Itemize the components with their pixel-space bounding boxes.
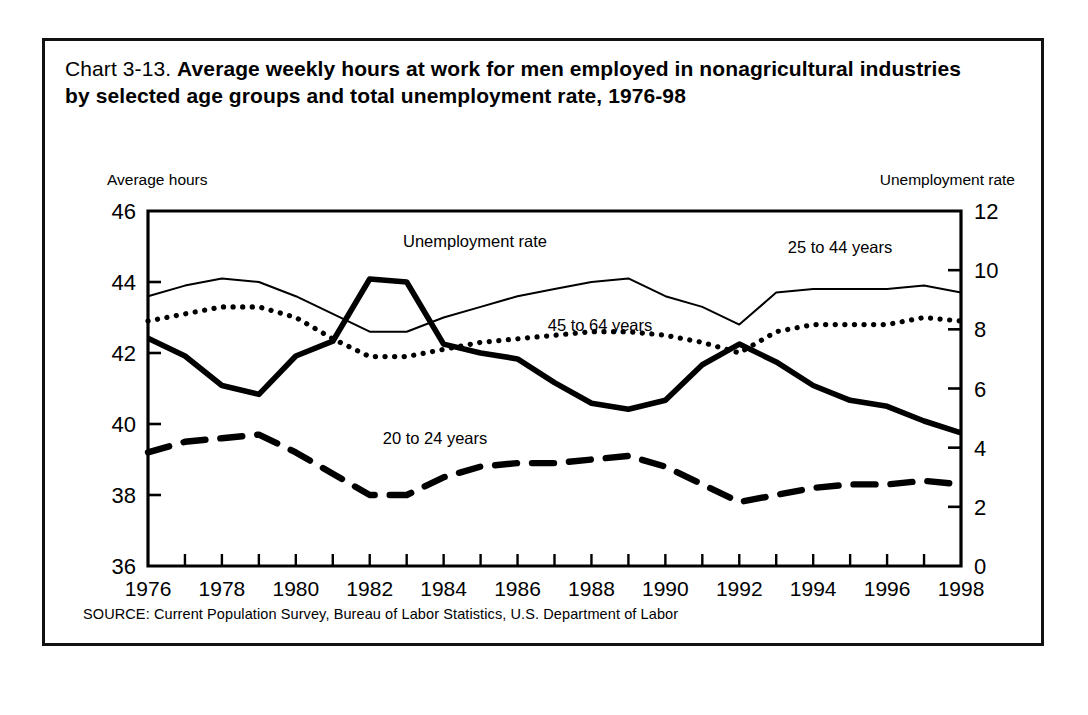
x-tick-label-1982: 1982	[346, 577, 393, 600]
x-tick-label-1984: 1984	[420, 577, 467, 600]
x-tick-label-1980: 1980	[272, 577, 319, 600]
x-tick-label-1978: 1978	[199, 577, 246, 600]
y-tick-label-left-36: 36	[112, 554, 136, 579]
y-tick-label-right-12: 12	[974, 199, 998, 224]
y-tick-label-right-6: 6	[974, 377, 986, 402]
x-tick-label-1998: 1998	[938, 577, 985, 600]
series-annotation-20-to-24-years: 20 to 24 years	[383, 429, 488, 447]
x-tick-label-1996: 1996	[864, 577, 911, 600]
series-line-unemployment-rate	[148, 279, 961, 433]
y-tick-label-right-4: 4	[974, 436, 986, 461]
x-tick-label-1994: 1994	[790, 577, 837, 600]
y-tick-label-right-10: 10	[974, 258, 998, 283]
source-note: SOURCE: Current Population Survey, Burea…	[83, 606, 678, 622]
x-tick-label-1976: 1976	[125, 577, 172, 600]
series-annotation-unemployment-rate: Unemployment rate	[403, 232, 547, 250]
x-tick-label-1992: 1992	[716, 577, 763, 600]
series-annotation-45-to-64-years: 45 to 64 years	[548, 316, 653, 334]
plot-axis-box	[148, 211, 961, 566]
y-tick-label-left-40: 40	[112, 412, 136, 437]
y-tick-label-left-46: 46	[112, 199, 136, 224]
x-tick-label-1988: 1988	[568, 577, 615, 600]
y-tick-label-left-42: 42	[112, 341, 136, 366]
chart-plot: 3638404244460246810121976197819801982198…	[45, 41, 1047, 649]
series-annotation-25-to-44-years: 25 to 44 years	[788, 238, 893, 256]
y-tick-label-right-8: 8	[974, 317, 986, 342]
series-line-20-to-24-years	[148, 435, 961, 503]
y-tick-label-right-0: 0	[974, 554, 986, 579]
x-tick-label-1990: 1990	[642, 577, 689, 600]
x-tick-label-1986: 1986	[494, 577, 541, 600]
y-tick-label-right-2: 2	[974, 495, 986, 520]
y-tick-label-left-38: 38	[112, 483, 136, 508]
chart-frame: Chart 3-13. Average weekly hours at work…	[42, 38, 1044, 646]
y-tick-label-left-44: 44	[112, 270, 136, 295]
chart-page: Chart 3-13. Average weekly hours at work…	[0, 0, 1088, 715]
